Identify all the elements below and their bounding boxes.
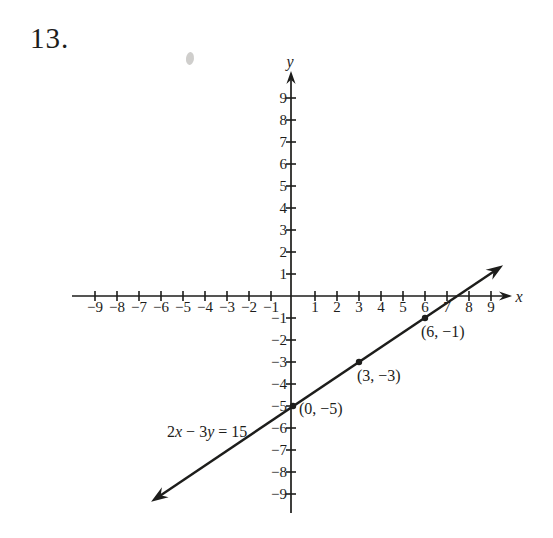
- y-tick-label: −1: [271, 310, 287, 326]
- x-tick-label: 8: [465, 299, 473, 315]
- x-tick-label: 3: [355, 299, 363, 315]
- y-axis-label: y: [284, 53, 294, 71]
- x-tick-label: −9: [87, 299, 103, 315]
- y-tick-label: −2: [271, 332, 287, 348]
- x-tick-label: 4: [377, 299, 385, 315]
- x-tick-label: −2: [241, 299, 257, 315]
- point-label: (3, −3): [357, 367, 401, 385]
- x-tick-label: 1: [311, 299, 319, 315]
- line-arrow-icon: [486, 265, 504, 280]
- y-tick-label: −8: [271, 464, 287, 480]
- y-tick-label: 9: [280, 90, 288, 106]
- y-tick-label: −4: [271, 376, 287, 392]
- x-tick-label: −5: [175, 299, 191, 315]
- x-tick-label: 6: [421, 299, 429, 315]
- point-label: (0, −5): [299, 400, 343, 418]
- y-tick-label: 8: [280, 112, 288, 128]
- x-tick-label: 5: [399, 299, 407, 315]
- y-tick-label: 4: [280, 200, 288, 216]
- y-tick-label: 7: [280, 134, 288, 150]
- point-label: (6, −1): [421, 323, 465, 341]
- x-tick-label: 9: [487, 299, 495, 315]
- x-tick-label: −6: [153, 299, 169, 315]
- x-tick-label: −8: [109, 299, 125, 315]
- x-axis-label: x: [514, 288, 522, 305]
- y-tick-label: 6: [280, 156, 288, 172]
- x-tick-label: 2: [333, 299, 341, 315]
- y-tick-label: −7: [271, 442, 287, 458]
- equation-label: 2x − 3y = 15: [167, 423, 247, 441]
- line-arrow-icon: [151, 487, 169, 502]
- y-tick-label: 1: [280, 266, 288, 282]
- point-dot: [356, 359, 362, 365]
- worksheet-page: 13. xy−9−9−8−8−7−7−6−6−5−5−4−4−3−3−2−2−1…: [0, 0, 553, 538]
- y-tick-label: −6: [271, 420, 287, 436]
- coordinate-plane-graph: xy−9−9−8−8−7−7−6−6−5−5−4−4−3−3−2−2−1−111…: [0, 0, 553, 538]
- point-dot: [422, 315, 428, 321]
- y-tick-label: 5: [280, 178, 288, 194]
- y-tick-label: 2: [280, 244, 288, 260]
- y-tick-label: −3: [271, 354, 287, 370]
- y-tick-label: 3: [280, 222, 288, 238]
- x-tick-label: −4: [197, 299, 213, 315]
- x-tick-label: −7: [131, 299, 147, 315]
- point-dot: [290, 403, 296, 409]
- x-tick-label: −3: [219, 299, 235, 315]
- y-tick-label: −9: [271, 486, 287, 502]
